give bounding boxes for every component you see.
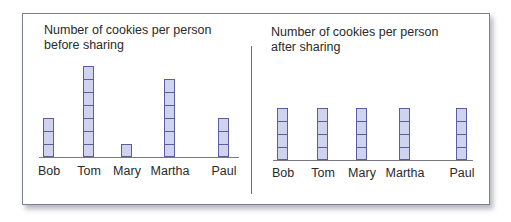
cookie-unit: [357, 135, 366, 148]
cookie-unit: [400, 122, 409, 135]
chart-title-after: Number of cookies per person after shari…: [271, 25, 438, 55]
cookie-unit: [122, 145, 131, 158]
cookie-unit: [457, 148, 466, 161]
cookie-unit: [165, 132, 174, 145]
cookie-unit: [165, 80, 174, 93]
category-label: Bob: [272, 166, 294, 180]
cookie-unit: [400, 148, 409, 161]
category-label: Martha: [151, 164, 190, 178]
bar-bob: [277, 108, 288, 160]
bar-martha: [399, 108, 410, 160]
cookie-unit: [84, 106, 93, 119]
cookie-unit: [44, 132, 53, 145]
category-label: Paul: [211, 164, 236, 178]
bar-mary: [121, 144, 132, 157]
cookie-unit: [84, 145, 93, 158]
cookie-unit: [219, 119, 228, 132]
cookie-unit: [457, 135, 466, 148]
cookie-unit: [400, 135, 409, 148]
bar-tom: [83, 66, 94, 157]
category-label: Mary: [113, 164, 141, 178]
cookie-unit: [278, 109, 287, 122]
title-line-2: before sharing: [44, 38, 211, 53]
bar-bob: [43, 118, 54, 157]
cookie-unit: [165, 145, 174, 158]
cookie-unit: [165, 93, 174, 106]
cookie-unit: [457, 109, 466, 122]
figure-frame: Number of cookies per person before shar…: [22, 13, 490, 205]
title-line-1: Number of cookies per person: [271, 25, 438, 40]
bar-paul: [456, 108, 467, 160]
cookie-unit: [84, 132, 93, 145]
cookie-unit: [318, 109, 327, 122]
cookie-unit: [357, 109, 366, 122]
bar-paul: [218, 118, 229, 157]
category-label: Bob: [38, 164, 60, 178]
cookie-unit: [278, 135, 287, 148]
cookie-unit: [278, 148, 287, 161]
cookie-unit: [318, 148, 327, 161]
cookie-unit: [44, 119, 53, 132]
title-line-1: Number of cookies per person: [44, 23, 211, 38]
cookie-unit: [357, 148, 366, 161]
cookie-unit: [84, 93, 93, 106]
chart-title-before: Number of cookies per person before shar…: [44, 23, 211, 53]
cookie-unit: [44, 145, 53, 158]
bar-mary: [356, 108, 367, 160]
cookie-unit: [457, 122, 466, 135]
cookie-unit: [84, 80, 93, 93]
cookie-unit: [318, 135, 327, 148]
category-label: Tom: [311, 166, 335, 180]
cookie-unit: [165, 119, 174, 132]
bar-martha: [164, 79, 175, 157]
cookie-unit: [219, 145, 228, 158]
category-label: Martha: [386, 166, 425, 180]
category-label: Mary: [348, 166, 376, 180]
cookie-unit: [165, 106, 174, 119]
category-label: Tom: [77, 164, 101, 178]
x-axis-baseline: [273, 160, 473, 161]
x-axis-baseline: [39, 157, 239, 158]
cookie-unit: [357, 122, 366, 135]
cookie-unit: [84, 67, 93, 80]
cookie-unit: [400, 109, 409, 122]
panel-divider: [251, 46, 252, 194]
bar-tom: [317, 108, 328, 160]
cookie-unit: [278, 122, 287, 135]
cookie-unit: [219, 132, 228, 145]
cookie-unit: [318, 122, 327, 135]
category-label: Paul: [449, 166, 474, 180]
cookie-unit: [84, 119, 93, 132]
title-line-2: after sharing: [271, 40, 438, 55]
